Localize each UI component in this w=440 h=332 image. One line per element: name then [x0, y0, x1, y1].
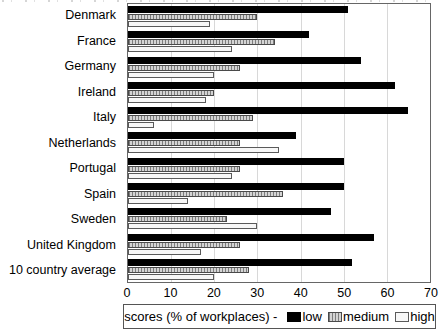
bar-low-denmark: [128, 6, 348, 13]
bar-group-netherlands: [128, 130, 430, 155]
bar-high-germany: [128, 72, 214, 78]
bar-low-netherlands: [128, 132, 296, 139]
bar-group-spain: [128, 181, 430, 206]
category-label-sweden: Sweden: [0, 207, 121, 232]
category-label-united-kingdom: United Kingdom: [0, 232, 121, 257]
category-label-france: France: [0, 28, 121, 53]
bar-medium-united-kingdom: [128, 242, 240, 248]
legend-title: scores (% of workplaces) -: [124, 309, 277, 324]
bar-low-ireland: [128, 82, 395, 89]
bar-group-ireland: [128, 80, 430, 105]
x-tick-0: 0: [124, 286, 131, 300]
bar-medium-netherlands: [128, 140, 240, 146]
category-label-germany: Germany: [0, 54, 121, 79]
category-label-denmark: Denmark: [0, 3, 121, 28]
x-tick-50: 50: [337, 286, 351, 300]
x-tick-70: 70: [424, 286, 438, 300]
bar-high-portugal: [128, 173, 232, 179]
legend-label-medium: medium: [343, 309, 389, 324]
bar-low-united-kingdom: [128, 234, 374, 241]
bar-high-netherlands: [128, 147, 279, 153]
bar-high-italy: [128, 122, 154, 128]
x-tick-30: 30: [250, 286, 264, 300]
high-swatch-icon: [395, 312, 409, 322]
bar-high-ireland: [128, 97, 206, 103]
low-swatch-icon: [287, 312, 301, 322]
category-label-italy: Italy: [0, 105, 121, 130]
bar-group-portugal: [128, 156, 430, 181]
category-axis: DenmarkFranceGermanyIrelandItalyNetherla…: [0, 3, 121, 283]
bar-high-spain: [128, 198, 188, 204]
bar-medium-italy: [128, 115, 253, 121]
bar-high-10-country-average: [128, 274, 214, 280]
bar-medium-spain: [128, 191, 283, 197]
bar-high-france: [128, 46, 232, 52]
bar-group-10-country-average: [128, 257, 430, 282]
category-label-10-country-average: 10 country average: [0, 258, 121, 283]
bar-medium-denmark: [128, 14, 257, 20]
legend-label-high: high: [410, 309, 435, 324]
bar-group-france: [128, 29, 430, 54]
x-axis: 010203040506070: [127, 286, 431, 300]
cropped-text-artifact: [2, 0, 438, 2]
bar-medium-portugal: [128, 166, 240, 172]
legend-entry-medium: medium: [328, 309, 389, 324]
x-tick-10: 10: [163, 286, 177, 300]
bar-rows: [128, 4, 430, 282]
category-label-portugal: Portugal: [0, 156, 121, 181]
category-label-netherlands: Netherlands: [0, 130, 121, 155]
bar-group-italy: [128, 105, 430, 130]
bar-low-portugal: [128, 158, 344, 165]
x-tick-40: 40: [294, 286, 308, 300]
bar-low-italy: [128, 107, 408, 114]
bar-medium-germany: [128, 65, 240, 71]
x-tick-20: 20: [207, 286, 221, 300]
bar-low-germany: [128, 57, 361, 64]
bar-medium-france: [128, 39, 275, 45]
x-tick-60: 60: [381, 286, 395, 300]
bar-group-united-kingdom: [128, 231, 430, 256]
legend-label-low: low: [302, 309, 322, 324]
plot-area: [127, 3, 431, 283]
bar-low-spain: [128, 183, 344, 190]
legend-entry-low: low: [287, 309, 322, 324]
bar-chart-figure: DenmarkFranceGermanyIrelandItalyNetherla…: [0, 0, 440, 332]
legend: scores (% of workplaces) - low medium hi…: [123, 304, 436, 329]
bar-medium-ireland: [128, 90, 214, 96]
category-label-ireland: Ireland: [0, 79, 121, 104]
bar-low-10-country-average: [128, 259, 352, 266]
bar-high-denmark: [128, 21, 210, 27]
bar-low-france: [128, 31, 309, 38]
legend-entry-high: high: [395, 309, 435, 324]
bar-medium-10-country-average: [128, 267, 249, 273]
bar-group-denmark: [128, 4, 430, 29]
bar-high-united-kingdom: [128, 249, 201, 255]
bar-high-sweden: [128, 223, 257, 229]
bar-low-sweden: [128, 208, 331, 215]
bar-medium-sweden: [128, 216, 227, 222]
bar-group-germany: [128, 55, 430, 80]
medium-swatch-icon: [328, 312, 342, 322]
category-label-spain: Spain: [0, 181, 121, 206]
bar-group-sweden: [128, 206, 430, 231]
